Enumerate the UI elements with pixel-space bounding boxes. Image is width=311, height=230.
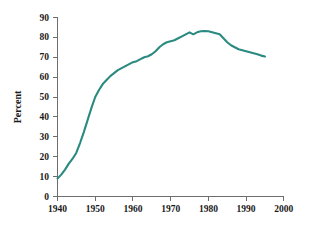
y-tick-label: 30 bbox=[40, 132, 50, 142]
x-tick-labels: 1940 1950 1960 1970 1980 1990 2000 bbox=[48, 204, 294, 214]
data-series-line bbox=[58, 31, 265, 179]
chart-figure: 0 10 20 30 40 50 60 70 80 90 1940 1950 1… bbox=[0, 0, 311, 230]
x-tick-label: 1980 bbox=[199, 204, 218, 214]
y-tick-labels: 0 10 20 30 40 50 60 70 80 90 bbox=[40, 13, 50, 202]
y-tick-label: 0 bbox=[44, 192, 49, 202]
y-tick-label: 70 bbox=[40, 52, 50, 62]
x-tick-label: 1960 bbox=[123, 204, 142, 214]
y-tick-label: 20 bbox=[40, 152, 50, 162]
x-tick-label: 1950 bbox=[86, 204, 105, 214]
y-tick-label: 10 bbox=[40, 172, 50, 182]
x-tick-label: 2000 bbox=[274, 204, 293, 214]
x-tick-label: 1990 bbox=[237, 204, 256, 214]
y-tick-label: 50 bbox=[40, 92, 50, 102]
y-tick-marks bbox=[53, 17, 58, 196]
y-tick-label: 80 bbox=[40, 32, 50, 42]
x-tick-label: 1970 bbox=[161, 204, 180, 214]
y-axis-title: Percent bbox=[12, 90, 23, 123]
line-chart: 0 10 20 30 40 50 60 70 80 90 1940 1950 1… bbox=[0, 0, 311, 230]
y-tick-label: 90 bbox=[40, 13, 50, 23]
y-tick-label: 60 bbox=[40, 72, 50, 82]
x-tick-marks bbox=[58, 197, 284, 202]
y-tick-label: 40 bbox=[40, 112, 50, 122]
x-tick-label: 1940 bbox=[48, 204, 67, 214]
